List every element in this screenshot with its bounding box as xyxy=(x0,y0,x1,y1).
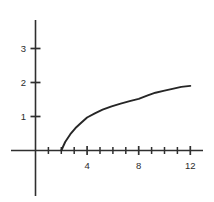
x-tick-label: 8 xyxy=(136,160,141,171)
chart-container: 4812 123 xyxy=(0,0,214,202)
chart-plot: 4812 123 xyxy=(0,0,214,202)
data-curve-curve xyxy=(61,86,190,151)
data-series-group xyxy=(61,86,190,151)
x-tick-label: 4 xyxy=(84,160,89,171)
y-tick-label: 2 xyxy=(21,77,26,88)
x-axis-tick-labels: 4812 xyxy=(84,160,195,171)
x-tick-label: 12 xyxy=(185,160,196,171)
y-axis-tick-labels: 123 xyxy=(21,43,26,122)
y-tick-label: 3 xyxy=(21,43,26,54)
y-tick-label: 1 xyxy=(21,111,26,122)
